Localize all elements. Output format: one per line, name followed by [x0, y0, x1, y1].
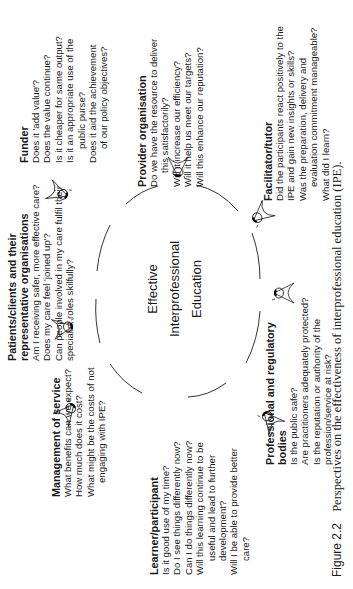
center-label-line: Effective	[142, 227, 164, 351]
perspective-funder: Funder Does it 'add value'? Does the val…	[18, 36, 110, 163]
perspective-management: Management of service What benefits can …	[50, 367, 108, 497]
question-line: Does my care feel 'joined up'?	[41, 185, 52, 361]
figure-caption-text: Perspectives on the effectiveness of int…	[330, 161, 344, 511]
figure-caption: Figure 2.2 Perspectives on the effective…	[330, 161, 345, 577]
question-line: Is it an appropriate use of the	[64, 36, 75, 163]
question-line: How much does it cost?	[73, 367, 84, 497]
center-label-line: Interprofessional	[164, 227, 186, 351]
question-line: Can people involved in my care fulfil th…	[53, 185, 64, 361]
question-line: of our policy objectives?	[98, 36, 109, 163]
question-line: Will this learning continue to be	[194, 441, 205, 575]
perspective-learner: Learner/participant Is it good use of my…	[148, 441, 251, 575]
question-line: care?	[240, 441, 251, 575]
question-line: engaging with IPE?	[96, 367, 107, 497]
question-line: Will it help us meet our targets?	[182, 39, 193, 187]
perspective-title: Patients/clients and their	[6, 185, 18, 361]
question-line: development?	[217, 441, 228, 575]
question-line: What might be the costs of not	[85, 367, 96, 497]
perspective-patients: Patients/clients and their representativ…	[6, 185, 76, 361]
perspective-title: Facilitator/tutor	[262, 26, 274, 201]
question-line: this satisfactorily?	[159, 39, 170, 187]
question-line: Will it increase our efficiency?	[171, 39, 182, 187]
question-line: Do we have the resource to deliver	[148, 39, 159, 187]
question-line: public purse?	[76, 36, 87, 163]
perspective-title: Management of service	[50, 367, 62, 497]
question-line: Will this enhance our reputation?	[194, 39, 205, 187]
perspective-title: Provider organisation	[136, 39, 148, 187]
perspective-title: Learner/participant	[148, 441, 160, 575]
question-line: Do I see things differently now?	[171, 441, 182, 575]
perspective-title: Professional and regulatory	[264, 298, 276, 465]
question-line: Is it good use of my time?	[160, 441, 171, 575]
question-line: Does it 'add value'?	[30, 36, 41, 163]
eye-icon	[245, 200, 275, 229]
question-line: Is the reputation or authority of the	[311, 298, 322, 465]
question-line: Is the public safe?	[288, 298, 299, 465]
perspective-title: representative organisations	[18, 185, 30, 361]
perspective-facilitator: Facilitator/tutor Did the participants r…	[262, 26, 331, 201]
question-line: IPE and gain new insights or skills?	[285, 26, 296, 201]
question-line: Did the participants react positively to…	[274, 26, 285, 201]
center-label-line: Education	[186, 227, 208, 351]
center-label: Effective Interprofessional Education	[142, 227, 208, 351]
perspective-professional: Professional and regulatory bodies Is th…	[264, 298, 334, 465]
question-line: Does it aid the achievement	[87, 36, 98, 163]
question-line: Can I do things differently now?	[183, 441, 194, 575]
question-line: evaluation commitment manageable?	[308, 26, 319, 201]
question-line: Am I receiving safer, more effective car…	[30, 185, 41, 361]
question-line: Is it cheaper for same output?	[53, 36, 64, 163]
question-line: Are practitioners adequately protected?	[299, 298, 310, 465]
question-line: specialist roles skilfully?	[64, 185, 75, 361]
question-line: What benefits can we expect?	[62, 367, 73, 497]
perspective-title: Funder	[18, 36, 30, 163]
figure-canvas: Effective Interprofessional Education Fu…	[0, 0, 353, 589]
question-line: Does the value continue?	[41, 36, 52, 163]
figure-number: Figure 2.2	[330, 523, 344, 577]
question-line: Was the preparation, delivery and	[297, 26, 308, 201]
perspective-title: bodies	[276, 298, 288, 465]
question-line: Will I be able to provide better	[228, 441, 239, 575]
question-line: useful and lead to further	[206, 441, 217, 575]
perspective-provider: Provider organisation Do we have the res…	[136, 39, 205, 187]
